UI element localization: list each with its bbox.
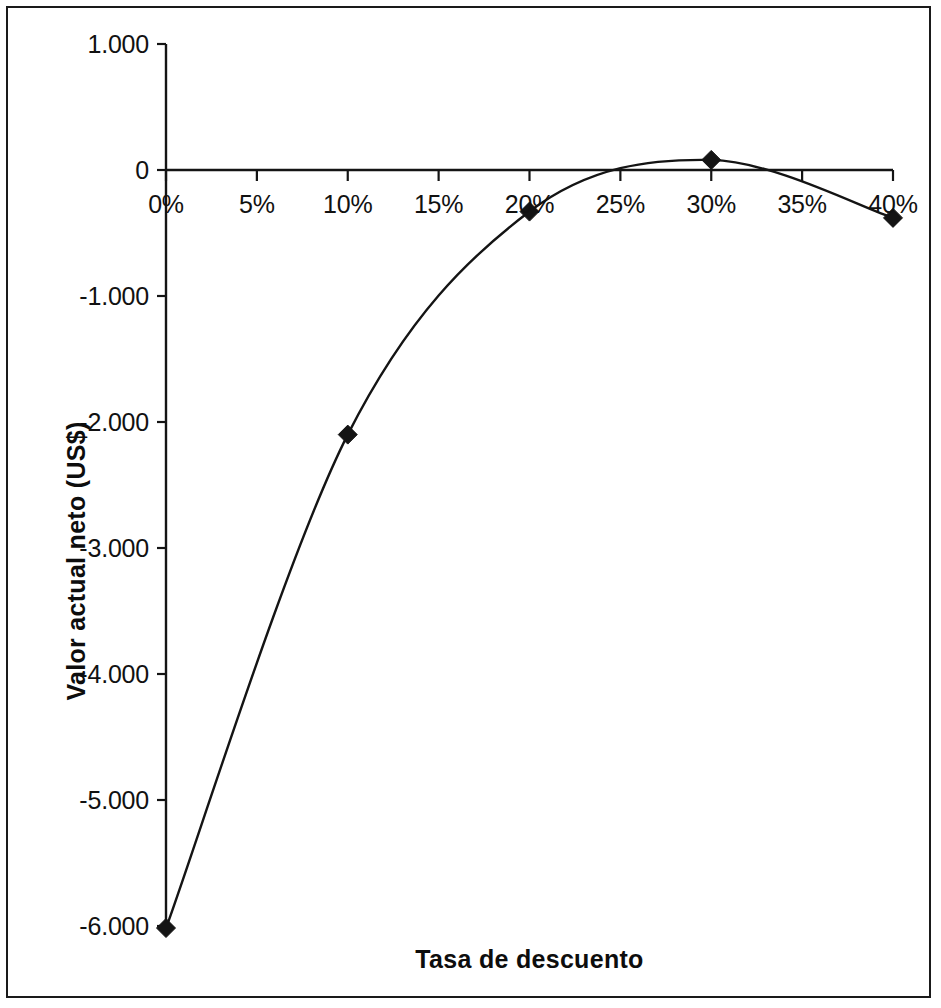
y-tick-label: 1.000 bbox=[0, 30, 149, 59]
x-tick-label: 20% bbox=[505, 190, 554, 219]
x-axis-title: Tasa de descuento bbox=[415, 945, 643, 974]
y-tick-label: -6.000 bbox=[0, 912, 149, 941]
y-tick-label: -5.000 bbox=[0, 786, 149, 815]
x-tick-label: 10% bbox=[323, 190, 372, 219]
x-tick-label: 0% bbox=[148, 190, 184, 219]
data-point-markers bbox=[157, 150, 903, 937]
y-axis-title: Valor actual neto (US$) bbox=[62, 421, 91, 700]
x-tick-label: 40% bbox=[868, 190, 917, 219]
axis-ticks bbox=[157, 44, 893, 926]
plot-area bbox=[0, 0, 941, 1008]
x-tick-label: 5% bbox=[239, 190, 275, 219]
y-tick-label: 0 bbox=[0, 156, 149, 185]
x-tick-label: 15% bbox=[414, 190, 463, 219]
x-tick-label: 35% bbox=[777, 190, 826, 219]
x-tick-label: 30% bbox=[687, 190, 736, 219]
y-tick-label: -1.000 bbox=[0, 282, 149, 311]
data-series-line bbox=[166, 160, 893, 928]
x-tick-label: 25% bbox=[596, 190, 645, 219]
chart-figure: 1.0000-1.000-2.000-3.000-4.000-5.000-6.0… bbox=[0, 0, 941, 1008]
